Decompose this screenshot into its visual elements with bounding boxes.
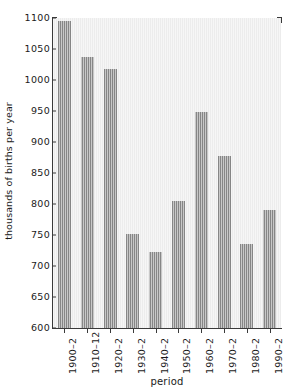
bar [104, 69, 117, 328]
x-tick-label: 1900–2 [68, 338, 78, 374]
bar [195, 112, 208, 328]
x-tick-mark [133, 329, 134, 333]
bar [149, 252, 162, 328]
bar [263, 210, 276, 328]
y-tick-mark [52, 328, 56, 329]
x-axis-tick-labels: 1900–21910–121920–21930–21940–21950–2196… [53, 330, 281, 376]
bar [81, 57, 94, 328]
x-tick-mark [201, 329, 202, 333]
y-tick-mark [52, 18, 56, 19]
y-tick-label: 1000 [16, 75, 50, 85]
x-tick-label: 1990–2 [274, 338, 284, 374]
x-axis-title: period [53, 376, 281, 387]
y-tick-label: 1100 [16, 13, 50, 23]
x-tick-mark [64, 329, 65, 333]
x-tick-label: 1910–12 [91, 332, 101, 374]
y-tick-mark [52, 142, 56, 143]
plot-area [53, 18, 281, 328]
y-tick-label: 900 [16, 137, 50, 147]
bar [218, 156, 231, 328]
y-tick-mark [52, 266, 56, 267]
bar [58, 21, 71, 328]
x-tick-mark [247, 329, 248, 333]
y-tick-label: 650 [16, 292, 50, 302]
y-axis-tick-labels: 600650700750800850900950100010501100 [16, 0, 50, 392]
y-tick-label: 1050 [16, 44, 50, 54]
y-tick-label: 600 [16, 323, 50, 333]
x-tick-label: 1930–2 [137, 338, 147, 374]
x-tick-label: 1950–2 [182, 338, 192, 374]
x-tick-mark [178, 329, 179, 333]
bar-chart-figure: thousands of births per year 60065070075… [0, 0, 288, 392]
y-tick-mark [52, 173, 56, 174]
x-tick-label: 1920–2 [114, 338, 124, 374]
bar-series [53, 18, 281, 328]
y-tick-label: 950 [16, 106, 50, 116]
bar [172, 201, 185, 328]
x-tick-mark [87, 329, 88, 333]
x-tick-mark [156, 329, 157, 333]
y-tick-mark [52, 235, 56, 236]
x-tick-mark [224, 329, 225, 333]
x-tick-label: 1970–2 [228, 338, 238, 374]
y-tick-label: 800 [16, 199, 50, 209]
bar [240, 244, 253, 328]
x-tick-label: 1960–2 [205, 338, 215, 374]
bar [126, 234, 139, 328]
y-axis-title: thousands of births per year [0, 6, 16, 336]
x-tick-mark [270, 329, 271, 333]
x-tick-label: 1980–2 [251, 338, 261, 374]
y-tick-mark [52, 297, 56, 298]
x-tick-mark [110, 329, 111, 333]
x-tick-label: 1940–2 [160, 338, 170, 374]
y-tick-mark [52, 111, 56, 112]
y-tick-mark [52, 49, 56, 50]
y-tick-label: 700 [16, 261, 50, 271]
y-tick-mark [52, 80, 56, 81]
y-tick-label: 850 [16, 168, 50, 178]
plot-right-edge [281, 17, 282, 23]
y-tick-mark [52, 204, 56, 205]
y-tick-label: 750 [16, 230, 50, 240]
